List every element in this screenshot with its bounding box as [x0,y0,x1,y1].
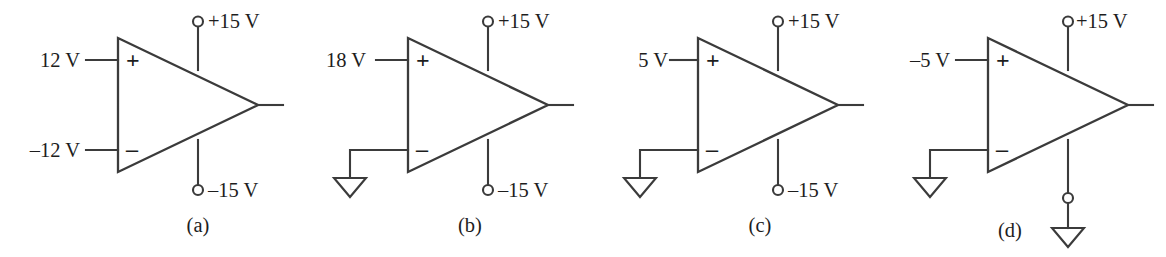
panel-d: –5 V + – +15 V (d) [870,0,1166,257]
plus-sign-d: + [996,47,1010,73]
panel-a: 12 V –12 V + – +15 V –15 V (a) [0,0,290,257]
top-supply-label-c: +15 V [788,10,840,32]
minus-input-ground-lead-c [640,150,698,178]
bottom-supply-label-a: –15 V [207,179,259,201]
bottom-supply-label-c: –15 V [787,179,839,201]
ground-icon-c [624,178,656,197]
ground-icon-bottom-d [1052,228,1084,247]
plus-input-label-c: 5 V [638,49,668,71]
bottom-supply-terminal-b[interactable] [483,185,493,195]
minus-input-ground-lead-d [930,150,988,178]
caption-a: (a) [187,214,210,237]
bottom-supply-terminal-a[interactable] [193,185,203,195]
minus-sign-b: – [415,136,429,162]
plus-sign-c: + [706,47,720,73]
panel-d-schematic: –5 V + – +15 V (d) [870,0,1166,257]
plus-input-label-d: –5 V [909,49,950,71]
minus-sign-d: – [995,136,1009,162]
top-supply-label-d: +15 V [1076,10,1128,32]
minus-input-ground-lead-b [350,150,408,178]
top-supply-label-a: +15 V [208,10,260,32]
plus-sign-a: + [126,47,140,73]
minus-sign-a: – [125,136,139,162]
panel-a-schematic: 12 V –12 V + – +15 V –15 V (a) [0,0,290,257]
minus-sign-c: – [705,136,719,162]
caption-d: (d) [998,219,1022,242]
ground-icon-b [334,178,366,197]
top-supply-terminal-d[interactable] [1063,17,1073,27]
bottom-supply-terminal-d[interactable] [1063,193,1073,203]
panel-b: 18 V + – +15 V –15 V (b) [290,0,580,257]
minus-input-label-a: –12 V [29,139,81,161]
op-amp-figure: 12 V –12 V + – +15 V –15 V (a) 18 V + – … [0,0,1166,257]
plus-input-label-a: 12 V [40,49,80,71]
top-supply-label-b: +15 V [498,10,550,32]
bottom-supply-label-b: –15 V [497,179,549,201]
top-supply-terminal-a[interactable] [193,17,203,27]
caption-c: (c) [749,214,772,237]
top-supply-terminal-b[interactable] [483,17,493,27]
plus-sign-b: + [416,47,430,73]
top-supply-terminal-c[interactable] [773,17,783,27]
panel-c-schematic: 5 V + – +15 V –15 V (c) [580,0,870,257]
caption-b: (b) [458,214,482,237]
bottom-supply-terminal-c[interactable] [773,185,783,195]
panel-b-schematic: 18 V + – +15 V –15 V (b) [290,0,580,257]
plus-input-label-b: 18 V [326,49,366,71]
panel-c: 5 V + – +15 V –15 V (c) [580,0,870,257]
ground-icon-d [914,178,946,197]
